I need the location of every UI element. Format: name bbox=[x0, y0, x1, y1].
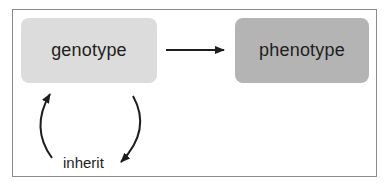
genotype-node: genotype bbox=[21, 18, 157, 83]
phenotype-node: phenotype bbox=[235, 18, 369, 83]
phenotype-label: phenotype bbox=[259, 40, 345, 61]
inherit-label: inherit bbox=[63, 154, 104, 172]
genotype-label: genotype bbox=[51, 40, 127, 61]
